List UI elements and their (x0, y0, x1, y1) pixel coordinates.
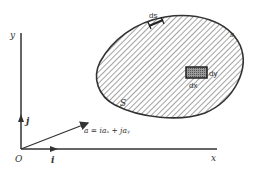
ds-label: ds (149, 11, 157, 20)
dx-label: dx (189, 81, 197, 90)
x-axis-label: x (211, 153, 216, 163)
dy-label: dy (209, 69, 217, 78)
unit-vector-j-label: j (24, 116, 30, 126)
region-s (96, 16, 243, 118)
j-arrow-icon (18, 114, 24, 122)
diagram-canvas: y x O i j a = iaₓ + jaᵧ S s ds dy dx (0, 0, 257, 169)
region-area-label: S (120, 98, 126, 108)
i-arrow-icon (50, 146, 58, 152)
boundary-label: s (230, 30, 234, 39)
unit-vector-i-label: i (51, 155, 55, 165)
y-axis-label: y (9, 30, 16, 40)
vector-a (21, 123, 88, 149)
vector-a-label: a = iaₓ + jaᵧ (84, 126, 130, 135)
area-element-rect (186, 67, 207, 78)
origin-label: O (15, 154, 23, 164)
